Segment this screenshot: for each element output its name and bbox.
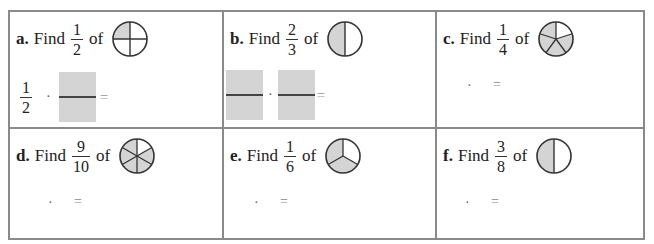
numerator: 9 <box>77 138 85 155</box>
find-label: Find <box>460 29 491 49</box>
of-label: of <box>304 29 318 49</box>
denominator: 4 <box>499 41 507 58</box>
find-label: Find <box>247 146 278 166</box>
equals-sign: = <box>280 194 288 210</box>
problem-f: f. Find 3 8 of · = <box>437 129 643 238</box>
find-label: Find <box>249 29 280 49</box>
work-area[interactable]: · = <box>48 195 53 211</box>
multiply-dot: · <box>46 89 51 105</box>
fraction-circle-halves-icon <box>535 137 573 175</box>
problem-grid: a. Find 1 2 of 1 2 · <box>8 10 645 240</box>
problem-e: e. Find 1 6 of · = <box>224 129 435 238</box>
multiply-dot: · <box>268 87 273 103</box>
numerator: 1 <box>499 21 507 38</box>
answer-fraction-input[interactable] <box>59 72 96 122</box>
find-label: Find <box>34 29 65 49</box>
of-label: of <box>513 146 527 166</box>
first-fraction-input[interactable] <box>226 70 263 120</box>
fraction: 3 8 <box>495 138 507 175</box>
equals-sign: = <box>74 194 82 210</box>
denominator: 8 <box>497 158 505 175</box>
of-label: of <box>302 146 316 166</box>
equals-sign: = <box>100 89 108 106</box>
multiply-dot: · <box>467 78 472 93</box>
fraction: 2 3 <box>286 21 298 58</box>
numerator: 1 <box>286 138 294 155</box>
problem-letter: d. <box>16 146 30 166</box>
equals-sign: = <box>317 87 325 104</box>
of-label: of <box>89 29 103 49</box>
multiply-dot: · <box>254 195 259 210</box>
numerator: 1 <box>22 79 30 96</box>
denominator: 10 <box>73 158 89 175</box>
fraction-circle-quarters-icon <box>111 20 149 58</box>
fraction-circle-sixths-icon <box>118 137 156 175</box>
given-fraction: 1 2 <box>20 79 32 116</box>
fraction-circle-halves-icon <box>326 20 364 58</box>
work-area[interactable]: · = <box>467 78 472 94</box>
numerator: 2 <box>288 21 296 38</box>
fraction: 1 4 <box>497 21 509 58</box>
problem-letter: a. <box>16 29 29 49</box>
problem-letter: e. <box>230 146 242 166</box>
find-label: Find <box>35 146 66 166</box>
fraction: 1 2 <box>71 21 83 58</box>
problem-a: a. Find 1 2 of 1 2 · <box>10 12 222 127</box>
multiply-dot: · <box>48 195 53 210</box>
problem-d: d. Find 9 10 of · = <box>10 129 222 238</box>
numerator: 3 <box>497 138 505 155</box>
of-label: of <box>96 146 110 166</box>
denominator: 2 <box>22 99 30 116</box>
work-area[interactable]: · = <box>465 195 470 211</box>
fraction: 9 10 <box>72 138 90 175</box>
equals-sign: = <box>491 194 499 210</box>
fraction-circle-fifths-icon <box>537 20 575 58</box>
second-fraction-input[interactable] <box>278 70 315 120</box>
find-label: Find <box>458 146 489 166</box>
denominator: 3 <box>288 41 296 58</box>
of-label: of <box>515 29 529 49</box>
numerator: 1 <box>73 21 81 38</box>
denominator: 2 <box>73 41 81 58</box>
problem-letter: f. <box>443 146 453 166</box>
fraction-circle-thirds-icon <box>324 137 362 175</box>
problem-letter: c. <box>443 29 455 49</box>
equals-sign: = <box>493 77 501 93</box>
work-area[interactable]: · = <box>254 195 259 211</box>
denominator: 6 <box>286 158 294 175</box>
multiply-dot: · <box>465 195 470 210</box>
problem-b: b. Find 2 3 of · = <box>224 12 435 127</box>
problem-c: c. Find 1 4 of · = <box>437 12 643 127</box>
problem-letter: b. <box>230 29 244 49</box>
fraction: 1 6 <box>284 138 296 175</box>
